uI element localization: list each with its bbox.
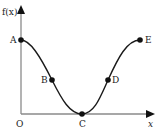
y-axis-label: f(x) (2, 7, 17, 17)
function-graph: f(x) x O A B C D E (0, 0, 161, 133)
point-b-label: B (41, 75, 48, 85)
point-c-label: C (79, 119, 86, 129)
point-e (137, 37, 143, 43)
point-e-label: E (145, 35, 152, 45)
x-axis-arrow-icon (146, 110, 155, 118)
point-d-label: D (112, 75, 119, 85)
point-c (79, 111, 85, 117)
point-a-label: A (9, 35, 17, 45)
origin-label: O (16, 119, 23, 129)
x-axis-label: x (148, 119, 153, 129)
y-axis-arrow-icon (17, 5, 25, 14)
curve (21, 40, 140, 114)
point-b (49, 77, 55, 83)
point-d (105, 77, 111, 83)
point-a (18, 37, 24, 43)
